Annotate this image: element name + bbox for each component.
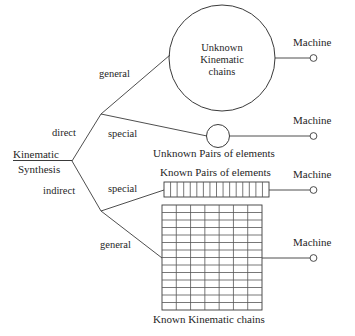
root-label-line1: Kinematic — [13, 149, 59, 161]
machine-label-1: Machine — [293, 37, 331, 49]
machine-node-3-dot — [310, 187, 317, 194]
branch-label-direct: direct — [52, 127, 76, 138]
branch-label-indirect: indirect — [43, 185, 75, 196]
node-caption-known-kinematic-chains: Known Kinematic chains — [153, 314, 265, 326]
root-label-line2: Synthesis — [18, 164, 60, 176]
machine-node-4-dot — [310, 255, 317, 262]
branch-line-indirect — [72, 161, 101, 211]
machine-node-1-dot — [310, 55, 317, 62]
node-caption-unknown-pairs-of-elements: Unknown Pairs of elements — [153, 148, 275, 160]
branch-label-direct-special: special — [108, 128, 137, 139]
branch-label-direct-general: general — [99, 68, 130, 79]
machine-label-4: Machine — [293, 237, 331, 249]
branch-label-indirect-general: general — [100, 239, 131, 250]
node-text-unknown-kinematic-chains-line3: chains — [186, 66, 258, 77]
branch-line-direct — [72, 114, 101, 161]
machine-node-2-dot — [310, 133, 317, 140]
node-caption-known-pairs-of-elements: Known Pairs of elements — [160, 167, 271, 179]
node-text-unknown-kinematic-chains-line1: Unknown — [186, 42, 258, 53]
branch-line-direct-general — [101, 55, 170, 114]
machine-label-2: Machine — [293, 115, 331, 127]
branch-label-indirect-special: special — [108, 183, 137, 194]
diagram-canvas: Kinematic Synthesis direct indirect gene… — [0, 0, 355, 336]
node-shape-unknown-pairs-of-elements — [207, 125, 230, 148]
node-shape-known-kinematic-chains — [162, 205, 262, 310]
node-shape-known-pairs-of-elements — [164, 182, 269, 197]
branch-line-indirect-general — [101, 211, 162, 258]
node-text-unknown-kinematic-chains-line2: Kinematic — [186, 54, 258, 65]
machine-label-3: Machine — [293, 169, 331, 181]
